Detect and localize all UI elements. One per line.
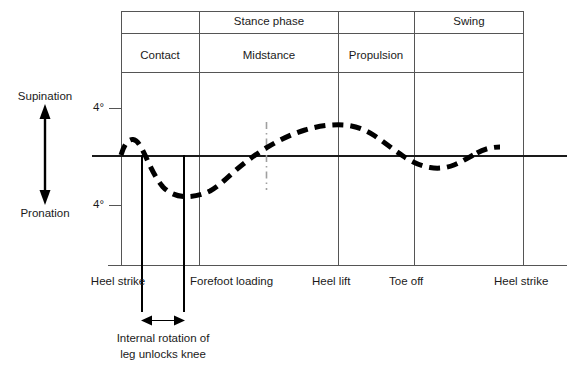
arrow-head-down [40,190,51,205]
phase-band-midstance: Midstance [243,50,295,62]
arrow-head-up [40,104,51,119]
phase-band-propulsion: Propulsion [349,50,403,62]
event-label-heel-lift: Heel lift [312,276,350,288]
event-label-toe-off: Toe off [389,276,423,288]
span-arrow-head-right [174,316,185,326]
gait-cycle-figure: Supination Pronation 4° 4° Stance phase … [0,0,567,375]
internal-rotation-span-arrow [141,316,185,326]
y-axis-ticks [109,109,121,206]
phase-band-swing: Swing [453,16,484,28]
event-label-heel-strike: Heel strike [91,276,145,288]
annotation-line-1: Internal rotation of [117,333,210,345]
event-grid-lines [122,12,524,266]
subtalar-motion-curve-tail [477,147,500,153]
y-tick-label-lower: 4° [93,199,104,211]
span-arrow-head-left [141,316,152,326]
event-label-forefoot-loading: Forefoot loading [190,276,273,288]
supination-label: Supination [18,91,72,103]
subtalar-motion-curve [121,125,477,197]
internal-rotation-marker-lines [142,155,184,312]
supination-pronation-arrow [40,104,51,205]
y-tick-label-upper: 4° [93,102,104,114]
pronation-label: Pronation [20,208,69,220]
phase-band-stance-phase: Stance phase [234,16,304,28]
event-label-heel-strike-end: Heel strike [494,276,548,288]
phase-band-contact: Contact [140,50,180,62]
annotation-line-2: leg unlocks knee [120,349,206,361]
